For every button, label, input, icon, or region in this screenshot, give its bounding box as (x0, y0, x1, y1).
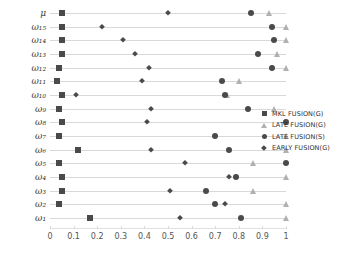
data-point (222, 92, 228, 98)
data-point (269, 65, 275, 71)
y-axis-tick-label: ω₄ (35, 172, 46, 182)
row-gridline (50, 54, 286, 55)
data-point (226, 147, 232, 153)
data-point (59, 24, 65, 30)
y-axis-tick-label: ω₁ (35, 213, 46, 223)
legend-item-label: EARLY FUSION(G) (272, 144, 330, 152)
x-axis-tick-label: 0.4 (138, 232, 151, 241)
legend-item-label: LATE FUSION(S) (272, 133, 325, 141)
y-axis-tick-label: ω₇ (35, 131, 46, 141)
x-axis-tick (121, 226, 122, 229)
data-point (283, 24, 289, 30)
data-point (56, 160, 62, 166)
data-point (233, 174, 239, 180)
legend-item[interactable]: LATE FUSION(G) (260, 120, 346, 132)
data-point (56, 65, 62, 71)
x-axis-tick-label: 0.9 (256, 232, 269, 241)
y-axis-tick-label: ω₁₄ (31, 35, 46, 45)
y-axis-tick-label: ω₁₂ (31, 63, 46, 73)
x-axis-tick (239, 226, 240, 229)
data-point (245, 106, 251, 112)
data-point (54, 78, 60, 84)
x-axis-tick (144, 226, 145, 229)
data-point (120, 37, 126, 43)
data-point (238, 215, 244, 221)
square-marker-icon (260, 111, 268, 116)
data-point (266, 10, 272, 16)
data-point (167, 188, 173, 194)
x-axis-tick (192, 226, 193, 229)
y-axis-tick-label: μ (40, 8, 46, 18)
y-axis-tick-label: ω₁₅ (31, 22, 46, 32)
data-point (283, 160, 289, 166)
data-point (236, 78, 242, 84)
data-point (212, 133, 218, 139)
data-point (283, 215, 289, 221)
data-point (250, 188, 256, 194)
y-axis-tick-label: ω₉ (35, 104, 46, 114)
data-point (56, 201, 62, 207)
x-axis-tick (262, 226, 263, 229)
row-gridline (50, 150, 286, 151)
y-axis-tick-label: ω₂ (35, 199, 46, 209)
y-axis-tick-label: ω₁₁ (31, 76, 46, 86)
y-axis-tick-label: ω₆ (35, 145, 46, 155)
data-point (59, 174, 65, 180)
data-point (165, 10, 171, 16)
row-gridline (50, 136, 286, 137)
data-point (146, 64, 152, 70)
data-point (144, 119, 150, 125)
data-point (177, 215, 183, 221)
data-point (283, 201, 289, 207)
scatter-chart: μω₁₅ω₁₄ω₁₃ω₁₂ω₁₁ω₁₀ω₉ω₈ω₇ω₆ω₅ω₄ω₃ω₂ω₁ 00… (0, 0, 347, 253)
x-axis-tick-label: 0.3 (114, 232, 127, 241)
x-axis-tick-label: 0 (47, 232, 52, 241)
data-point (148, 106, 154, 112)
row-gridline (50, 40, 286, 41)
data-point (222, 201, 228, 207)
x-axis-tick-label: 0.7 (209, 232, 222, 241)
legend-item[interactable]: MKL FUSION(G) (260, 108, 346, 120)
row-gridline (50, 95, 286, 96)
data-point (59, 37, 65, 43)
data-point (283, 65, 289, 71)
x-axis-tick (97, 226, 98, 229)
y-axis-tick-label: ω₁₃ (31, 49, 46, 59)
plot-area (50, 6, 286, 225)
data-point (283, 37, 289, 43)
data-point (59, 92, 65, 98)
row-gridline (50, 218, 286, 219)
x-axis-tick-label: 0.5 (162, 232, 175, 241)
y-axis-tick-label: ω₅ (35, 158, 46, 168)
legend-item[interactable]: LATE FUSION(S) (260, 131, 346, 143)
data-point (73, 92, 79, 98)
data-point (59, 51, 65, 57)
data-point (219, 78, 225, 84)
x-axis-tick-label: 0.8 (232, 232, 245, 241)
data-point (269, 24, 275, 30)
y-axis-labels: μω₁₅ω₁₄ω₁₃ω₁₂ω₁₁ω₁₀ω₉ω₈ω₇ω₆ω₅ω₄ω₃ω₂ω₁ (0, 6, 46, 225)
row-gridline (50, 81, 286, 82)
chart-legend: MKL FUSION(G)LATE FUSION(G)LATE FUSION(S… (260, 108, 346, 154)
row-gridline (50, 177, 286, 178)
data-point (250, 160, 256, 166)
x-axis-tick (286, 226, 287, 229)
row-gridline (50, 27, 286, 28)
row-gridline (50, 204, 286, 205)
data-point (59, 10, 65, 16)
data-point (212, 201, 218, 207)
triangle-marker-icon (260, 123, 268, 128)
data-point (255, 51, 261, 57)
data-point (139, 78, 145, 84)
data-point (181, 160, 187, 166)
diamond-marker-icon (260, 146, 268, 150)
row-gridline (50, 68, 286, 69)
x-axis-tick (215, 226, 216, 229)
legend-item[interactable]: EARLY FUSION(G) (260, 143, 346, 155)
data-point (87, 215, 93, 221)
circle-marker-icon (260, 134, 268, 139)
legend-item-label: MKL FUSION(G) (272, 110, 324, 118)
legend-item-label: LATE FUSION(G) (272, 121, 326, 129)
x-axis-tick (168, 226, 169, 229)
x-axis-line (50, 228, 286, 229)
